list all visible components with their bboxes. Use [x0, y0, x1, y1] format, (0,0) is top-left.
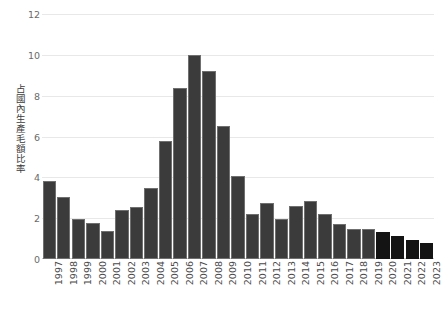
x-axis-tick-label-2006: 2006	[184, 261, 195, 285]
x-axis-tick-label-2005: 2005	[169, 261, 180, 285]
bar-2004	[144, 188, 157, 259]
x-axis-tick-label-2003: 2003	[140, 261, 151, 285]
bars-container	[42, 14, 434, 259]
bar-2020	[376, 232, 389, 259]
bar-2023	[420, 243, 433, 259]
bar-2006	[173, 88, 186, 260]
bar-2003	[130, 207, 143, 259]
y-axis-tick-labels: 024681012	[8, 0, 40, 310]
y-axis-tick-label: 12	[18, 9, 40, 20]
x-axis-tick-label-2010: 2010	[242, 261, 253, 285]
bar-2014	[289, 206, 302, 259]
x-axis-tick-label-2002: 2002	[126, 261, 137, 285]
bar-2017	[333, 224, 346, 259]
y-axis-tick-label: 4	[18, 172, 40, 183]
x-axis-tick-label-2022: 2022	[416, 261, 427, 285]
bar-2011	[246, 214, 259, 259]
x-axis-tick-labels: 1997199819992000200120022003200420052006…	[42, 261, 434, 310]
x-axis-tick-label-1997: 1997	[53, 261, 64, 285]
bar-2010	[231, 176, 244, 259]
x-axis-tick-label-2020: 2020	[387, 261, 398, 285]
x-axis-tick-label-1999: 1999	[82, 261, 93, 285]
bar-2016	[318, 214, 331, 259]
bar-2000	[86, 223, 99, 259]
bar-2005	[159, 141, 172, 259]
y-axis-tick-label: 6	[18, 131, 40, 142]
x-axis-tick-label-1998: 1998	[68, 261, 79, 285]
bar-2019	[362, 229, 375, 259]
y-axis-tick-label: 8	[18, 90, 40, 101]
y-axis-tick-label: 2	[18, 213, 40, 224]
bar-2015	[304, 201, 317, 259]
bar-2001	[101, 231, 114, 259]
x-axis-tick-label-2013: 2013	[286, 261, 297, 285]
x-axis-tick-label-2021: 2021	[402, 261, 413, 285]
x-axis-tick-label-2012: 2012	[271, 261, 282, 285]
x-axis-tick-label-2018: 2018	[358, 261, 369, 285]
x-axis-tick-label-2014: 2014	[300, 261, 311, 285]
x-axis-tick-label-2015: 2015	[315, 261, 326, 285]
x-axis-tick-label-2017: 2017	[344, 261, 355, 285]
bar-2018	[347, 229, 360, 259]
x-axis-tick-label-2007: 2007	[198, 261, 209, 285]
x-axis-tick-label-2016: 2016	[329, 261, 340, 285]
bar-2021	[391, 236, 404, 259]
bar-2012	[260, 203, 273, 259]
bar-2009	[217, 126, 230, 259]
y-axis-tick-label: 10	[18, 49, 40, 60]
y-axis-tick-label: 0	[18, 254, 40, 265]
plot-area	[42, 14, 434, 259]
bar-2007	[188, 55, 201, 259]
bar-1997	[43, 181, 56, 259]
x-axis-tick-label-2023: 2023	[431, 261, 442, 285]
bar-1998	[57, 197, 70, 259]
bar-2002	[115, 210, 128, 259]
x-axis-tick-label-2011: 2011	[257, 261, 268, 285]
x-axis-tick-label-2004: 2004	[155, 261, 166, 285]
bar-chart: 占國內生產毛額比率 024681012 19971998199920002001…	[0, 0, 446, 310]
bar-2008	[202, 71, 215, 259]
bar-2022	[406, 240, 419, 259]
x-axis-tick-label-2000: 2000	[97, 261, 108, 285]
bar-2013	[275, 219, 288, 259]
bar-1999	[72, 219, 85, 259]
x-axis-tick-label-2001: 2001	[111, 261, 122, 285]
x-axis-tick-label-2019: 2019	[373, 261, 384, 285]
x-axis-tick-label-2009: 2009	[227, 261, 238, 285]
x-axis-tick-label-2008: 2008	[213, 261, 224, 285]
